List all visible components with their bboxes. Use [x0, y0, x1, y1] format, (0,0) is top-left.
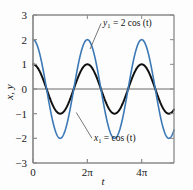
x-tick-label: 2π: [82, 166, 94, 178]
y-tick-label: −3: [15, 157, 27, 169]
y-tick-label: −1: [15, 108, 27, 120]
y-tick-label: −2: [15, 132, 27, 144]
x-tick-label: 0: [30, 166, 36, 178]
plot-canvas: 3210−1−2−3 02π4π x, y t y1 = 2 cos (t) x…: [0, 0, 193, 190]
y-tick-label: 0: [22, 83, 28, 95]
y-tick-label: 2: [22, 34, 28, 46]
y-tick-label: 3: [22, 9, 28, 21]
x-axis-title: t: [101, 175, 105, 187]
chart-figure: 3210−1−2−3 02π4π x, y t y1 = 2 cos (t) x…: [0, 0, 193, 190]
x-tick-label: 4π: [136, 166, 148, 178]
y-tick-label: 1: [22, 58, 28, 70]
y-axis-title: x, y: [3, 84, 15, 100]
